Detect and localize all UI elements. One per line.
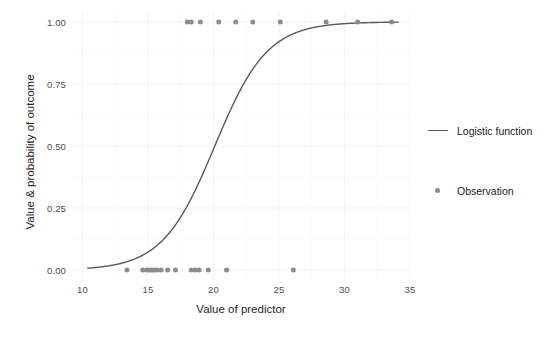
x-tick-label: 20 [208, 284, 219, 295]
y-axis-title: Value & probability of outcome [24, 27, 36, 277]
x-tick-label: 10 [77, 284, 88, 295]
y-tick-label: 1.00 [47, 16, 66, 27]
x-axis-tick-labels: 101520253035 [72, 284, 410, 300]
legend-entry-logistic-function: Logistic function [425, 120, 532, 142]
plot-panel [72, 12, 410, 280]
x-tick-label: 15 [143, 284, 154, 295]
x-tick-label: 30 [339, 284, 350, 295]
y-tick-label: 0.00 [47, 265, 66, 276]
y-tick-label: 0.75 [47, 78, 66, 89]
x-tick-label: 25 [274, 284, 285, 295]
x-axis-title: Value of predictor [72, 303, 410, 315]
legend-label-observation: Observation [457, 185, 514, 197]
y-tick-label: 0.50 [47, 141, 66, 152]
x-tick-label: 35 [405, 284, 416, 295]
legend-point-key [425, 180, 451, 202]
logistic-regression-chart: 0.000.250.500.751.00 Value & probability… [0, 0, 551, 341]
legend-line-key [425, 120, 451, 142]
plot-canvas [72, 12, 410, 280]
logistic-curve [88, 22, 398, 268]
legend-label-logistic-function: Logistic function [457, 125, 532, 137]
grid-lines [72, 12, 410, 280]
y-tick-label: 0.25 [47, 203, 66, 214]
legend-entry-observation: Observation [425, 180, 514, 202]
